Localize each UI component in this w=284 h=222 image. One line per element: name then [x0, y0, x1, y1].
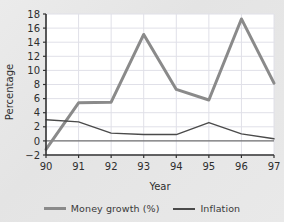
chart-figure: Percentage −2024681012141618 90919293949…	[0, 0, 284, 195]
y-tick-label: 8	[34, 79, 40, 90]
y-tick-label: 18	[27, 9, 40, 20]
y-tick-label: 10	[27, 65, 40, 76]
x-tick-label: 92	[105, 161, 118, 172]
x-tick-label: 95	[202, 161, 215, 172]
x-tick-label: 93	[137, 161, 150, 172]
y-tick-label: 6	[34, 93, 40, 104]
legend-item-inflation: Inflation	[173, 203, 240, 214]
line-chart-plot: Percentage −2024681012141618 90919293949…	[0, 0, 284, 195]
y-axis-title: Percentage	[4, 64, 15, 120]
y-tick-label: −2	[25, 150, 40, 161]
x-tick-label: 97	[268, 161, 281, 172]
x-axis-title: Year	[148, 181, 171, 192]
x-tick-label: 90	[40, 161, 53, 172]
y-tick-label: 4	[34, 107, 40, 118]
y-tick-label: 14	[27, 37, 40, 48]
chart-legend: Money growth (%) Inflation	[0, 195, 284, 222]
y-tick-label: 0	[34, 136, 40, 147]
y-tick-label: 12	[27, 51, 40, 62]
y-tick-label: 16	[27, 23, 40, 34]
legend-label-money-growth: Money growth (%)	[71, 203, 160, 214]
x-tick-label: 91	[72, 161, 85, 172]
legend-swatch-icon	[173, 208, 195, 210]
y-tick-label: 2	[34, 121, 40, 132]
x-axis-ticks: 9091929394959697	[40, 155, 281, 172]
legend-swatch-icon	[44, 207, 66, 210]
y-axis-ticks: −2024681012141618	[25, 9, 46, 161]
chart-container: Percentage −2024681012141618 90919293949…	[0, 0, 284, 222]
x-tick-label: 94	[170, 161, 183, 172]
legend-item-money-growth: Money growth (%)	[44, 203, 160, 214]
x-tick-label: 96	[235, 161, 248, 172]
legend-label-inflation: Inflation	[200, 203, 240, 214]
